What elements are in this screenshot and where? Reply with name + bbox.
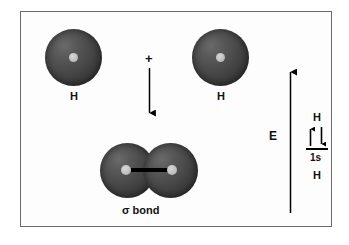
sigma-bond-line — [131, 168, 168, 172]
left-hydrogen-nucleus — [69, 53, 78, 62]
chemistry-diagram: H H + σ bond E H 1s H — [0, 0, 349, 245]
right-hydrogen-nucleus — [216, 53, 225, 62]
product-left-nucleus — [121, 165, 131, 175]
product-right-nucleus — [167, 165, 177, 175]
arrow-overlay — [0, 0, 349, 245]
